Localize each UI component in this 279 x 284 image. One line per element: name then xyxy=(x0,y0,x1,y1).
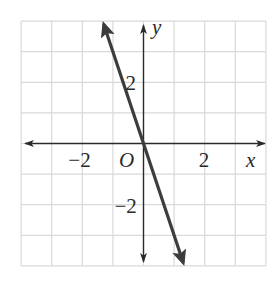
y-tick-label: 2 xyxy=(126,71,137,95)
x-tick-label: −2 xyxy=(68,148,90,172)
origin-label: O xyxy=(119,148,134,172)
x-tick-label: 2 xyxy=(199,148,210,172)
y-axis-label: y xyxy=(150,15,162,39)
tick-labels: −222−2 xyxy=(68,71,209,217)
x-axis-label: x xyxy=(245,148,256,172)
y-tick-label: −2 xyxy=(115,194,137,218)
coordinate-plane: −222−2 x y O xyxy=(0,0,279,284)
